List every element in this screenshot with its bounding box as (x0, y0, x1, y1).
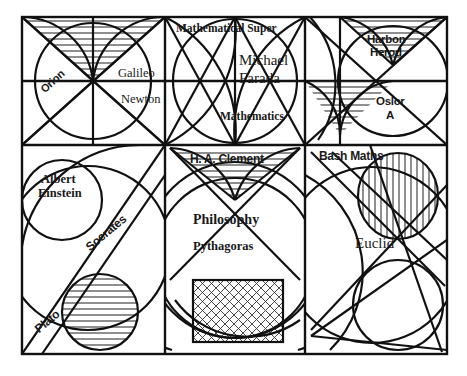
label-bash-maths: Bash Maths (319, 149, 383, 163)
label-ha-clement: H. A. Clement (190, 152, 264, 166)
label-galileo: Galileo (118, 66, 155, 81)
label-pythagoras: Pythagoras (193, 239, 253, 254)
label-mathematics: Mathematics (220, 110, 284, 122)
label-harbon: Harbon (367, 33, 405, 45)
label-euclid: Euclid (355, 235, 394, 252)
label-newton: Newton (121, 92, 161, 107)
label-philosophy: Philosophy (193, 212, 259, 228)
label-farada: Farada (239, 70, 280, 87)
label-michael: Michael (239, 52, 288, 69)
label-oslor: Oslor (376, 95, 405, 107)
label-herod: Herod (370, 46, 402, 58)
label-oslor-a: A (386, 109, 394, 121)
figure-canvas: Orion Galileo Newton Mathematical Super … (0, 0, 467, 376)
label-mathematical-super: Mathematical Super (176, 22, 277, 34)
label-albert: Albert (41, 172, 76, 187)
label-einstein: Einstein (38, 186, 82, 201)
